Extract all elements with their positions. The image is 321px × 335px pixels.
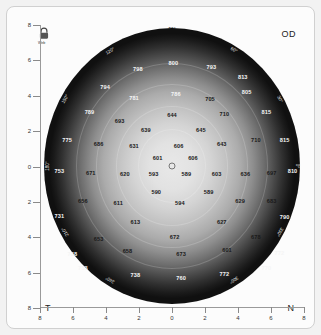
- thickness-value-label: 594: [175, 200, 185, 206]
- thickness-value-label: 693: [115, 118, 125, 124]
- y-axis-tick-label: 8: [19, 305, 31, 311]
- x-axis-tick-label: 6: [269, 315, 272, 321]
- degree-label: 180°: [44, 161, 49, 171]
- thickness-value-label: 731: [55, 213, 65, 219]
- thickness-value-label: 697: [267, 170, 277, 176]
- map-canvas: 8007987937948137817867058057896936447108…: [41, 25, 303, 306]
- x-axis-tick-label: 4: [104, 315, 107, 321]
- screenshot-root: Web OD T N 864202468 864202468 800798793…: [0, 0, 321, 335]
- x-axis-tick: [271, 307, 272, 313]
- x-axis-tick: [205, 307, 206, 313]
- thickness-value-label: 629: [235, 198, 245, 204]
- thickness-value-label: 772: [220, 271, 230, 277]
- x-axis-tick-label: 0: [170, 315, 173, 321]
- x-axis-tick-label: 8: [302, 315, 305, 321]
- y-axis-tick: [33, 202, 40, 203]
- thickness-value-label: 686: [94, 141, 104, 147]
- x-axis-tick-label: 8: [38, 315, 41, 321]
- thickness-value-label: 601: [222, 247, 232, 253]
- thickness-value-label: 631: [129, 143, 139, 149]
- thickness-value-label: 738: [130, 272, 140, 278]
- y-axis-tick: [33, 167, 40, 168]
- thickness-value-label: 658: [123, 248, 133, 254]
- thickness-value-label: 805: [242, 89, 252, 95]
- degree-label: 0°: [295, 163, 300, 167]
- x-axis-tick-label: 2: [137, 315, 140, 321]
- thickness-value-label: 656: [78, 198, 88, 204]
- thickness-value-label: 606: [188, 155, 198, 161]
- thickness-value-label: 672: [170, 234, 180, 240]
- x-axis-tick: [73, 307, 74, 313]
- x-axis-tick-label: 6: [71, 315, 74, 321]
- thickness-value-label: 589: [204, 189, 214, 195]
- x-axis-tick: [40, 307, 41, 313]
- thickness-value-label: 738: [68, 251, 78, 257]
- thickness-value-label: 603: [212, 171, 222, 177]
- y-axis-tick-label: 4: [19, 234, 31, 240]
- x-axis-tick: [139, 307, 140, 313]
- thickness-value-label: 653: [94, 236, 104, 242]
- x-axis-tick: [106, 307, 107, 313]
- y-axis-tick-label: 4: [19, 93, 31, 99]
- y-axis-tick: [33, 131, 40, 132]
- x-axis-tick: [172, 307, 173, 313]
- thickness-value-label: 673: [176, 251, 186, 257]
- thickness-value-label: 790: [280, 214, 290, 220]
- map-panel: Web OD T N 864202468 864202468 800798793…: [6, 6, 315, 329]
- thickness-value-label: 645: [196, 127, 206, 133]
- thickness-value-label: 620: [120, 171, 130, 177]
- thickness-value-label: 639: [141, 127, 151, 133]
- thickness-value-label: 733: [78, 265, 88, 271]
- thickness-value-label: 775: [62, 137, 72, 143]
- fixation-center-marker: [169, 162, 176, 169]
- thickness-value-label: 789: [85, 109, 95, 115]
- thickness-value-label: 800: [168, 60, 178, 66]
- thickness-value-label: 753: [55, 168, 65, 174]
- y-axis-tick: [33, 273, 40, 274]
- thickness-value-label: 611: [114, 200, 123, 206]
- x-axis-tick: [238, 307, 239, 313]
- y-axis-tick-label: 0: [19, 164, 31, 170]
- y-axis-tick: [33, 96, 40, 97]
- thickness-map-plot[interactable]: 8007987937948137817867058057896936447108…: [41, 25, 303, 306]
- thickness-value-label: 613: [130, 219, 140, 225]
- thickness-value-label: 772: [275, 250, 285, 256]
- x-axis-tick: [304, 307, 305, 313]
- thickness-value-label: 813: [238, 74, 248, 80]
- x-axis-tick-label: 4: [236, 315, 239, 321]
- thickness-value-label: 810: [288, 168, 298, 174]
- y-axis-tick-label: 2: [19, 199, 31, 205]
- y-axis-tick-label: 8: [19, 22, 31, 28]
- thickness-value-label: 636: [241, 171, 251, 177]
- thickness-value-label: 678: [251, 234, 261, 240]
- thickness-value-label: 815: [261, 109, 271, 115]
- thickness-value-label: 644: [167, 112, 177, 118]
- thickness-value-label: 601: [153, 155, 163, 161]
- thickness-value-label: 683: [267, 198, 277, 204]
- thickness-value-label: 794: [100, 84, 110, 90]
- thickness-value-label: 786: [171, 91, 181, 97]
- thickness-value-label: 710: [220, 111, 230, 117]
- y-axis-tick: [33, 237, 40, 238]
- y-axis-tick-label: 6: [19, 57, 31, 63]
- thickness-value-label: 671: [86, 170, 96, 176]
- thickness-value-label: 798: [133, 66, 143, 72]
- thickness-value-label: 705: [205, 96, 215, 102]
- y-axis-tick: [33, 308, 40, 309]
- thickness-value-label: 606: [174, 143, 184, 149]
- y-axis-tick: [33, 60, 40, 61]
- thickness-value-label: 710: [251, 137, 261, 143]
- degree-label: 270°: [167, 298, 177, 303]
- y-axis-tick: [33, 25, 40, 26]
- thickness-value-label: 593: [149, 171, 159, 177]
- x-axis-tick-label: 2: [203, 315, 206, 321]
- thickness-value-label: 590: [151, 189, 161, 195]
- thickness-value-label: 589: [182, 171, 192, 177]
- thickness-value-label: 781: [129, 95, 139, 101]
- y-axis-tick-label: 2: [19, 128, 31, 134]
- thickness-value-label: 627: [217, 219, 227, 225]
- degree-label: 90°: [169, 27, 176, 32]
- thickness-value-label: 793: [206, 64, 216, 70]
- thickness-value-label: 643: [217, 141, 227, 147]
- thickness-value-label: 760: [176, 275, 186, 281]
